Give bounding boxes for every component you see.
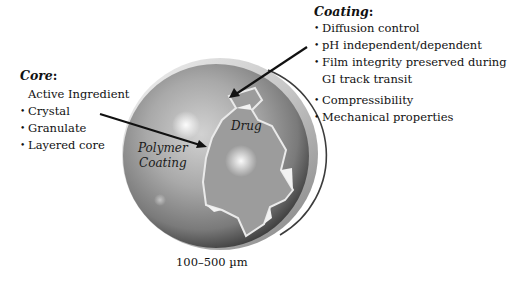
coating-section: Coating: Diffusion control pH independen… — [314, 4, 507, 126]
core-item-crystal: Crystal — [20, 103, 130, 120]
core-title: Core: — [20, 68, 130, 83]
drug-label: Drug — [231, 119, 262, 134]
coating-item-mechanical: Mechanical properties — [314, 109, 507, 126]
core-subtitle: Active Ingredient — [20, 86, 130, 103]
coating-title: Coating: — [314, 4, 507, 19]
size-label: 100–500 µm — [176, 254, 248, 271]
coating-item-film-integrity: Film integrity preserved during — [314, 54, 507, 71]
core-item-granulate: Granulate — [20, 120, 130, 137]
coating-item-film-integrity-cont: GI track transit — [314, 71, 507, 88]
coating-item-compressibility: Compressibility — [314, 92, 507, 109]
coating-list: Diffusion control pH independent/depende… — [314, 20, 507, 126]
coating-item-diffusion: Diffusion control — [314, 20, 507, 37]
polymer-coating-label: Polymer Coating — [138, 141, 188, 171]
core-item-layered-core: Layered core — [20, 137, 130, 154]
core-list: Crystal Granulate Layered core — [20, 103, 130, 154]
coating-item-ph: pH independent/dependent — [314, 37, 507, 54]
core-section: Core: Active Ingredient Crystal Granulat… — [20, 68, 130, 154]
